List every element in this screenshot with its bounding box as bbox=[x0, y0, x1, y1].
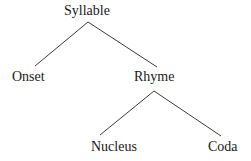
edge-syllable-onset bbox=[35, 22, 88, 66]
edge-rhyme-nucleus bbox=[100, 91, 154, 135]
edge-syllable-rhyme bbox=[88, 22, 157, 67]
node-nucleus: Nucleus bbox=[91, 140, 137, 154]
node-syllable: Syllable bbox=[64, 4, 110, 18]
node-coda: Coda bbox=[208, 140, 238, 154]
edge-rhyme-coda bbox=[154, 91, 221, 136]
node-rhyme: Rhyme bbox=[134, 70, 174, 84]
node-onset: Onset bbox=[12, 70, 45, 84]
